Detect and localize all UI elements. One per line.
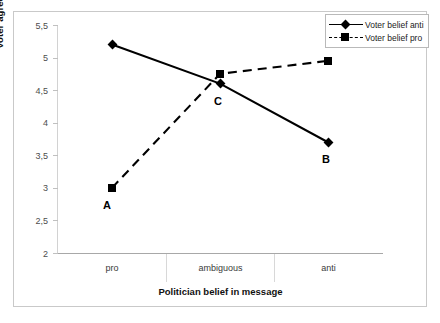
- legend-key-diamond-icon: [329, 19, 363, 30]
- x-axis-category-ambiguous: ambiguous: [166, 254, 274, 282]
- data-point-square: [216, 70, 224, 78]
- chart-figure: Voter agreement with politician 5,554,54…: [0, 0, 440, 323]
- y-axis-tick-label: 3: [43, 183, 48, 193]
- y-axis-tick-label: 5,5: [35, 21, 48, 31]
- plot-area: ABC: [58, 25, 382, 253]
- y-axis-tick-label: 2: [43, 249, 48, 259]
- x-axis-category-label: pro: [58, 263, 166, 273]
- legend-label-pro: Voter belief pro: [365, 33, 422, 43]
- y-axis-tick-label: 4,5: [35, 86, 48, 96]
- data-point-square: [324, 57, 332, 65]
- x-axis-category-label: ambiguous: [167, 263, 274, 273]
- legend-label-anti: Voter belief anti: [365, 20, 424, 30]
- series-lines: [58, 25, 382, 253]
- y-axis-tick-label: 5: [43, 53, 48, 63]
- legend-item-voter-belief-anti: Voter belief anti: [329, 18, 424, 31]
- chart-legend: Voter belief anti Voter belief pro: [325, 14, 429, 48]
- x-axis-title: Politician belief in message: [58, 286, 383, 297]
- annotation-label-B: B: [322, 153, 330, 165]
- data-point-square: [108, 184, 116, 192]
- y-axis-tick-label: 4: [43, 118, 48, 128]
- annotation-label-C: C: [214, 95, 222, 107]
- x-axis-category-label: anti: [275, 263, 382, 273]
- y-axis-tick-label: 2,5: [35, 216, 48, 226]
- legend-item-voter-belief-pro: Voter belief pro: [329, 31, 424, 44]
- x-axis-category-anti: anti: [274, 254, 382, 282]
- line-voter-belief-anti: [112, 45, 328, 143]
- x-axis-categories: proambiguousanti: [58, 254, 383, 282]
- legend-key-square-icon: [329, 32, 363, 43]
- x-axis-category-pro: pro: [58, 254, 166, 282]
- annotation-label-A: A: [103, 199, 111, 211]
- y-axis-title: Voter agreement with politician: [0, 0, 5, 62]
- y-axis-tick-label: 3,5: [35, 151, 48, 161]
